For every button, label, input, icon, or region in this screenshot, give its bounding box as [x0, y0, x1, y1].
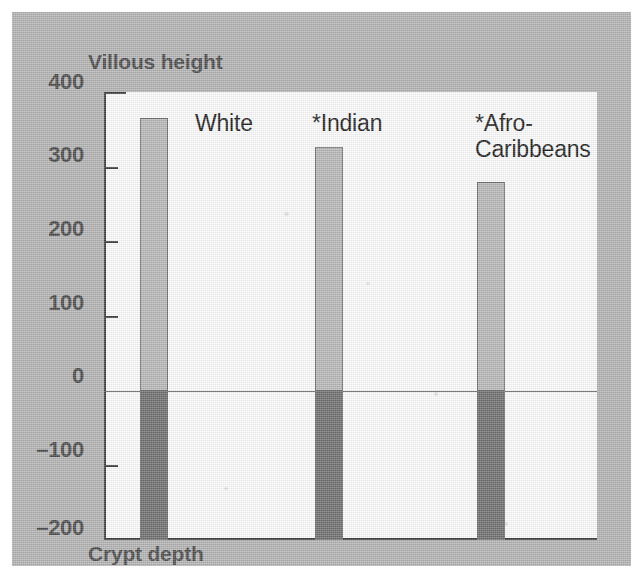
bar-crypt-depth-white[interactable] — [140, 391, 168, 540]
villous-height-axis-title: Villous height — [88, 50, 223, 74]
ytick-label-minus-100: –100 — [12, 437, 84, 463]
ytick-minus-100 — [104, 465, 118, 467]
x-axis-bottom-line — [104, 538, 597, 540]
ytick-label-200: 200 — [12, 216, 84, 242]
bar-villous-height-white[interactable] — [140, 118, 168, 391]
ytick-label-400: 400 — [12, 69, 84, 95]
scan-speckle — [284, 212, 289, 216]
zero-baseline — [104, 391, 597, 392]
ytick-label-minus-200: –200 — [12, 515, 84, 541]
chart-card: Villous height Crypt depth 400 300 200 1… — [12, 12, 631, 566]
ytick-200 — [104, 241, 118, 243]
bar-villous-height-indian[interactable] — [315, 147, 343, 391]
bar-crypt-depth-indian[interactable] — [315, 391, 343, 540]
plot-area: White *Indian *Afro- Caribbeans — [104, 92, 597, 540]
crypt-depth-axis-title: Crypt depth — [88, 542, 204, 566]
y-axis-top-cap — [104, 92, 126, 94]
category-label-indian: *Indian — [312, 111, 382, 137]
bar-crypt-depth-afro-caribbeans[interactable] — [477, 391, 505, 540]
scan-speckle — [366, 282, 370, 285]
bar-villous-height-afro-caribbeans[interactable] — [477, 182, 505, 391]
ytick-label-300: 300 — [12, 142, 84, 168]
category-label-afro-caribbeans: *Afro- Caribbeans — [475, 111, 591, 163]
scan-speckle — [224, 487, 228, 490]
figure-root: Villous height Crypt depth 400 300 200 1… — [0, 0, 639, 574]
ytick-label-0: 0 — [12, 363, 84, 389]
category-label-white: White — [195, 111, 253, 137]
ytick-300 — [104, 167, 118, 169]
scan-speckle — [434, 392, 438, 396]
ytick-100 — [104, 316, 118, 318]
ytick-label-100: 100 — [12, 290, 84, 316]
